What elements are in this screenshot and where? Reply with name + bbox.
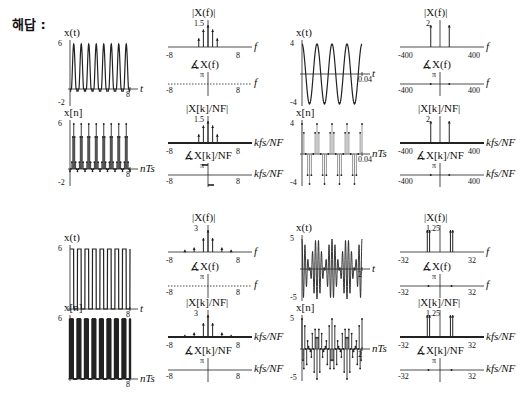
panel-b-phase-f-pi: π: [432, 70, 436, 79]
panel-a-phase-k-xmin: -8: [166, 177, 173, 186]
panel-d-phase-f-xmax: 32: [468, 288, 476, 297]
panel-c-mag-f-peak: 3: [194, 224, 198, 233]
panel-b-phase-f-xmin: -400: [398, 86, 413, 95]
panel-c-mag-f-xmin: -8: [166, 256, 173, 265]
panel-a-phase-k-pi: π: [200, 161, 204, 170]
panel-a-time-xlabel: t: [140, 82, 143, 94]
panel-b-mag-k-xmax: 400: [468, 147, 480, 156]
panel-d-sampled-ytick-bottom: -5: [290, 373, 297, 382]
panel-b-mag-k-peak: 2: [426, 115, 430, 124]
panel-a-phase-f-title: ∡X(f): [190, 58, 219, 71]
panel-d-phase-k-pi: π: [432, 356, 436, 365]
panel-b-time-ylabel: x(t): [296, 26, 312, 38]
panel-b-phase-k-title: ∡X[k]/NF: [416, 149, 464, 162]
panel-b-mag-f-peak: 2: [426, 19, 430, 28]
panel-c-phase-k-xmax: 8: [236, 372, 240, 381]
panel-d-sampled-xtick: 2: [358, 350, 362, 359]
panel-b-mag-f-xmin: -400: [398, 51, 413, 60]
panel-d-phase-f-xlabel: f: [486, 278, 489, 290]
panel-b-time-xtick: 0.04: [358, 75, 372, 84]
panel-c-mag-k-xlabel: kfs/NF: [254, 330, 283, 342]
panel-d-time-ytick-top: 5: [290, 234, 294, 243]
panel-c-time-xlabel: t: [140, 302, 143, 314]
panel-c-mag-f-xlabel: f: [254, 245, 257, 257]
panel-c-mag-f-plot: [168, 225, 248, 255]
panel-c-mag-f-xmax: 8: [236, 256, 240, 265]
panel-a-mag-k-xmax: 8: [236, 147, 240, 156]
panel-d-sampled-ylabel: x[n]: [296, 301, 314, 313]
panel-d-mag-f-xmax: 32: [468, 256, 476, 265]
panel-b-mag-k-title: |X[k]/NF|: [418, 102, 460, 114]
panel-c-mag-k-title: |X[k]/NF|: [186, 296, 228, 308]
panel-b-sampled-ylabel: x[n]: [296, 106, 314, 118]
panel-c-sampled-xlabel: nTs: [140, 372, 155, 384]
panel-c-phase-k-xlabel: kfs/NF: [254, 362, 283, 374]
panel-a-phase-f-pi: π: [200, 70, 204, 79]
panel-b-time-ytick-top: 4: [290, 39, 294, 48]
panel-d-mag-k-title: |X[k]/NF|: [418, 296, 460, 308]
panel-a-mag-k-peak: 1.5: [194, 115, 204, 124]
panel-b-mag-k-xlabel: kfs/NF: [486, 136, 515, 148]
panel-d-phase-k-title: ∡X[k]/NF: [416, 344, 464, 357]
panel-a-phase-f-xlabel: f: [254, 76, 257, 88]
panel-c-time-ylabel: x(t): [64, 231, 80, 243]
panel-d-time-xlabel: t: [372, 262, 375, 274]
panel-d-sampled-ytick-top: 5: [290, 314, 294, 323]
panel-a-phase-k-title: ∡X[k]/NF: [184, 149, 232, 162]
panel-a-time-ytick-top: 6: [58, 39, 62, 48]
panel-b-phase-k-xlabel: kfs/NF: [486, 167, 515, 179]
answer-label: 해답 :: [12, 14, 46, 33]
panel-d-phase-f-pi: π: [432, 272, 436, 281]
panel-c-sampled-ytick-top: 6: [58, 314, 62, 323]
panel-d-mag-k-xmin: -32: [398, 341, 409, 350]
panel-c-mag-k-peak: 3: [194, 309, 198, 318]
panel-d-mag-f-xmin: -32: [398, 256, 409, 265]
panel-c-phase-k-xmin: -8: [166, 372, 173, 381]
panel-c-sampled-xtick: 8: [126, 380, 130, 389]
panel-b-sampled-ytick-top: 4: [290, 119, 294, 128]
panel-a-phase-f-xmin: -8: [166, 86, 173, 95]
panel-a-mag-f-plot: [168, 20, 248, 50]
panel-c-phase-k-pi: π: [200, 356, 204, 365]
panel-a-mag-f-peak: 1.5: [194, 19, 204, 28]
panel-b-mag-k-xmin: -400: [398, 147, 413, 156]
panel-a-time-xtick: 8: [126, 90, 130, 99]
panel-a-phase-k-xlabel: kfs/NF: [254, 167, 283, 179]
panel-d-time-ylabel: x(t): [296, 221, 312, 233]
panel-d-mag-f-peak: 1.25: [426, 224, 440, 233]
panel-d-time-xtick: 2: [358, 270, 362, 279]
panel-d-mag-k-xmax: 32: [468, 341, 476, 350]
panel-a-mag-k-xmin: -8: [166, 147, 173, 156]
panel-a-phase-f-xmax: 8: [236, 86, 240, 95]
panel-a-sampled-xtick: 8: [126, 170, 130, 179]
panel-b-mag-f-xmax: 400: [468, 51, 480, 60]
panel-c-mag-f-title: |X(f)|: [192, 211, 215, 223]
panel-d-phase-k-xlabel: kfs/NF: [486, 362, 515, 374]
panel-a-sampled-xlabel: nTs: [140, 162, 155, 174]
panel-c-phase-f-xlabel: f: [254, 278, 257, 290]
panel-c-mag-k-xmin: -8: [166, 341, 173, 350]
panel-a-sampled-ylabel: x[n]: [64, 106, 82, 118]
panel-d-phase-f-title: ∡X(f): [422, 260, 451, 273]
panel-d-mag-k-xlabel: kfs/NF: [486, 330, 515, 342]
panel-c-phase-k-title: ∡X[k]/NF: [184, 344, 232, 357]
panel-b-time-plot: [300, 40, 366, 106]
panel-b-mag-f-xlabel: f: [486, 40, 489, 52]
panel-b-sampled-ytick-bottom: -4: [290, 178, 297, 187]
panel-b-sampled-xtick: 0.04: [358, 155, 372, 164]
panel-c-phase-f-xmax: 8: [236, 288, 240, 297]
panel-a-time-ylabel: x(t): [64, 26, 80, 38]
panel-a-mag-k-xlabel: kfs/NF: [254, 136, 283, 148]
panel-c-mag-k-xmax: 8: [236, 341, 240, 350]
panel-d-time-plot: [300, 235, 366, 301]
panel-b-sampled-xlabel: nTs: [372, 147, 387, 159]
panel-a-mag-f-xlabel: f: [254, 40, 257, 52]
panel-c-phase-f-pi: π: [200, 272, 204, 281]
panel-b-mag-k-plot: [400, 116, 480, 146]
panel-a-sampled-ytick-bottom: -2: [58, 178, 65, 187]
panel-a-mag-f-xmin: -8: [166, 51, 173, 60]
panel-d-sampled-plot: [300, 315, 366, 381]
panel-a-phase-k-xmax: 8: [236, 177, 240, 186]
panel-d-mag-f-title: |X(f)|: [424, 211, 447, 223]
panel-b-mag-f-title: |X(f)|: [424, 6, 447, 18]
